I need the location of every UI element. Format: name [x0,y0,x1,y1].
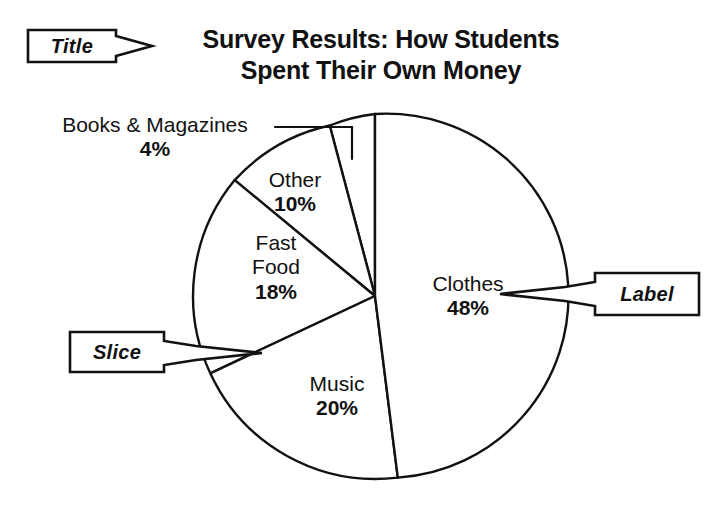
pie-label-books-magazines-pct: 4% [26,137,284,161]
pie-label-fast-food-name-line1: Fast [228,231,324,255]
pie-chart-figure: Survey Results: How Students Spent Their… [0,0,719,526]
pie-label-clothes: Clothes 48% [414,272,522,321]
chart-line-art [0,0,719,526]
pie-label-books-magazines-name: Books & Magazines [26,113,284,137]
callout-label-text: Label [620,283,674,306]
pie-label-clothes-pct: 48% [414,296,522,320]
callout-title-text: Title [51,35,93,58]
callout-label-label: Label [595,273,699,315]
callout-slice-label: Slice [70,332,164,372]
callout-title-label: Title [28,30,116,62]
pie-label-music-name: Music [287,372,387,396]
pie-label-other: Other 10% [251,168,339,217]
pie-label-fast-food-pct: 18% [228,280,324,304]
pie-label-other-pct: 10% [251,192,339,216]
pie-label-clothes-name: Clothes [414,272,522,296]
pie-label-music: Music 20% [287,372,387,421]
pie-label-other-name: Other [251,168,339,192]
callout-slice-text: Slice [93,341,141,364]
pie-label-books-magazines: Books & Magazines 4% [26,113,284,162]
pie-label-fast-food: Fast Food 18% [228,231,324,304]
pie-label-music-pct: 20% [287,396,387,420]
pie-label-fast-food-name-line2: Food [228,255,324,279]
